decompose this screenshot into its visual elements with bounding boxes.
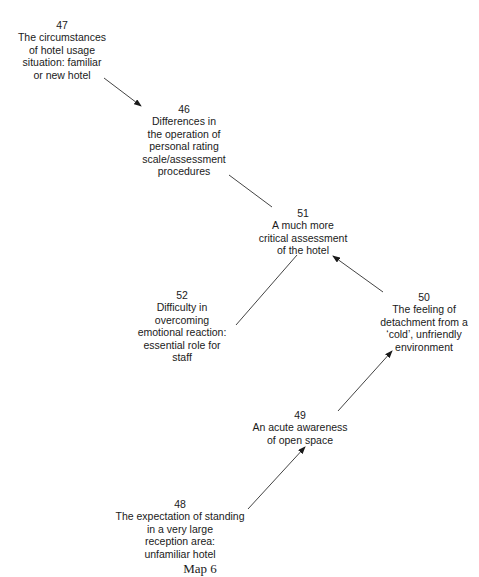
node-text-line: personal rating xyxy=(142,140,225,152)
node-text-line: critical assessment xyxy=(259,232,348,244)
node-text-line: of the hotel xyxy=(259,244,348,256)
node-49: 49 An acute awareness of open space xyxy=(252,409,347,446)
node-text-line: of hotel usage xyxy=(18,44,106,56)
node-50: 50 The feeling of detachment from a ‘col… xyxy=(380,291,468,353)
node-text-line: in a very large xyxy=(115,523,244,535)
node-46: 46 Differences in the operation of perso… xyxy=(142,103,225,177)
node-text-line: Difficulty in xyxy=(138,301,227,313)
connector-52-to-51 xyxy=(236,255,297,325)
node-text-line: Differences in xyxy=(142,115,225,127)
node-text-line: the operation of xyxy=(142,128,225,140)
node-text-line: environment xyxy=(380,341,468,353)
node-number: 51 xyxy=(259,207,348,219)
node-47: 47 The circumstances of hotel usage situ… xyxy=(18,19,106,81)
node-text-line: overcoming xyxy=(138,314,227,326)
node-text-line: staff xyxy=(138,351,227,363)
node-text-line: An acute awareness xyxy=(252,421,347,433)
node-number: 49 xyxy=(252,409,347,421)
node-text-line: unfamiliar hotel xyxy=(115,548,244,560)
node-48: 48 The expectation of standing in a very… xyxy=(115,498,244,560)
node-text-line: emotional reaction: xyxy=(138,326,227,338)
node-text-line: reception area: xyxy=(115,535,244,547)
node-51: 51 A much more critical assessment of th… xyxy=(259,207,348,257)
node-number: 46 xyxy=(142,103,225,115)
arrow-47-to-46 xyxy=(104,78,141,106)
arrow-48-to-49 xyxy=(248,447,305,509)
node-text-line: The circumstances xyxy=(18,31,106,43)
node-text-line: ‘cold’, unfriendly xyxy=(380,328,468,340)
map-caption: Map 6 xyxy=(183,561,217,577)
node-text-line: or new hotel xyxy=(18,69,106,81)
node-text-line: A much more xyxy=(259,219,348,231)
node-text-line: scale/assessment xyxy=(142,153,225,165)
node-number: 50 xyxy=(380,291,468,303)
node-number: 52 xyxy=(138,289,227,301)
node-number: 47 xyxy=(18,19,106,31)
node-number: 48 xyxy=(115,498,244,510)
arrow-50-to-51 xyxy=(333,256,383,292)
node-text-line: The feeling of xyxy=(380,303,468,315)
node-text-line: detachment from a xyxy=(380,316,468,328)
node-52: 52 Difficulty in overcoming emotional re… xyxy=(138,289,227,363)
node-text-line: The expectation of standing xyxy=(115,510,244,522)
node-text-line: essential role for xyxy=(138,339,227,351)
connector-46-to-51 xyxy=(229,175,272,207)
node-text-line: situation: familiar xyxy=(18,56,106,68)
node-text-line: of open space xyxy=(252,434,347,446)
node-text-line: procedures xyxy=(142,165,225,177)
arrow-49-to-50 xyxy=(338,351,392,411)
